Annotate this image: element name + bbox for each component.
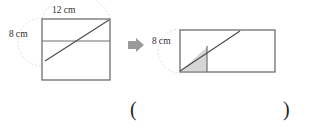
left-width-label: 12 cm: [52, 5, 76, 15]
left-height-label: 8 cm: [9, 29, 28, 39]
geometry-figure-canvas: [0, 0, 309, 132]
right-diagonal-line: [180, 31, 240, 71]
transform-arrow: [128, 38, 144, 52]
answer-open-paren: (: [130, 99, 137, 119]
right-arrow-icon: [128, 38, 144, 52]
left-dimension-arc: [18, 18, 42, 66]
answer-close-paren: ): [283, 99, 290, 119]
right-height-label: 8 cm: [152, 36, 171, 46]
right-figure-group: [158, 29, 275, 73]
left-square-outline: [42, 19, 110, 80]
